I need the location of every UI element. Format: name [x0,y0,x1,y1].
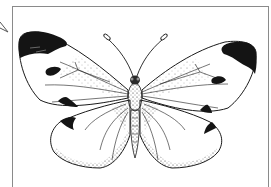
butterfly-drawing [0,0,271,187]
left-hindwing [51,100,130,168]
pointer-arrow-icon [0,22,8,32]
antennae [103,33,168,76]
illustration-frame: Large White butterfly (dorsal view), pen… [0,0,271,187]
right-forewing [142,41,257,113]
